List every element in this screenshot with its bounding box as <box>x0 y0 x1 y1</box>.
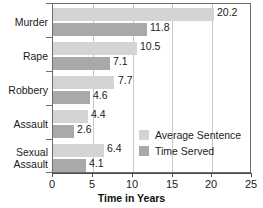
y-tick-assault <box>46 139 52 140</box>
y-category-label-murder: Murder <box>0 17 48 29</box>
y-category-line: Assault <box>0 119 48 131</box>
y-tick-robbery <box>46 105 52 106</box>
legend-label-time-served: Time Served <box>155 145 214 157</box>
x-tick-0 <box>52 173 53 177</box>
bar-label-rape-time-served: 7.1 <box>113 55 128 68</box>
bar-sexual-assault-average-sentence[interactable] <box>53 144 104 157</box>
y-category-label-assault: Assault <box>0 119 48 131</box>
bar-label-murder-average-sentence: 20.2 <box>217 6 237 19</box>
bar-label-rape-average-sentence: 10.5 <box>140 40 160 53</box>
x-tick-15 <box>172 173 173 177</box>
bar-robbery-time-served[interactable] <box>53 91 90 104</box>
bar-murder-average-sentence[interactable] <box>53 8 214 21</box>
bar-label-robbery-average-sentence: 7.7 <box>118 74 133 87</box>
grouped-bar-chart: 20.2 11.8 10.5 7.1 7.7 <box>0 0 263 208</box>
x-axis-title: Time in Years <box>0 192 263 204</box>
y-category-line: Rape <box>0 51 48 63</box>
bar-label-sexual-assault-average-sentence: 6.4 <box>107 142 122 155</box>
legend: Average Sentence Time Served <box>139 128 241 160</box>
bar-rape-average-sentence[interactable] <box>53 42 137 55</box>
x-tick-label-5: 5 <box>89 178 95 190</box>
bar-group-murder: 20.2 11.8 <box>53 8 250 42</box>
legend-item-time-served[interactable]: Time Served <box>139 144 241 158</box>
legend-swatch-time-served <box>139 146 149 156</box>
legend-label-average-sentence: Average Sentence <box>155 129 241 141</box>
y-category-label-sexual-assault: Sexual Assault <box>0 147 48 170</box>
bar-group-robbery: 7.7 4.6 <box>53 76 250 110</box>
y-tick-top <box>46 3 52 4</box>
bar-label-sexual-assault-time-served: 4.1 <box>89 157 104 170</box>
y-category-label-robbery: Robbery <box>0 85 48 97</box>
x-tick-label-25: 25 <box>245 178 257 190</box>
x-tick-label-10: 10 <box>126 178 138 190</box>
bar-label-assault-time-served: 2.6 <box>77 123 92 136</box>
x-tick-10 <box>132 173 133 177</box>
plot-area: 20.2 11.8 10.5 7.1 7.7 <box>52 3 251 173</box>
y-category-line: Sexual <box>0 147 48 159</box>
bar-assault-time-served[interactable] <box>53 125 74 138</box>
y-tick-murder <box>46 37 52 38</box>
y-category-label-rape: Rape <box>0 51 48 63</box>
legend-item-average-sentence[interactable]: Average Sentence <box>139 128 241 142</box>
bar-assault-average-sentence[interactable] <box>53 110 88 123</box>
x-tick-label-0: 0 <box>49 178 55 190</box>
bar-robbery-average-sentence[interactable] <box>53 76 114 89</box>
y-category-line: Murder <box>0 17 48 29</box>
bar-group-rape: 10.5 7.1 <box>53 42 250 76</box>
bar-sexual-assault-time-served[interactable] <box>53 159 86 172</box>
y-tick-rape <box>46 71 52 72</box>
bar-label-robbery-time-served: 4.6 <box>93 89 108 102</box>
x-axis-line <box>52 173 251 174</box>
y-category-line: Assault <box>0 159 48 171</box>
legend-swatch-average-sentence <box>139 130 149 140</box>
bar-label-murder-time-served: 11.8 <box>150 21 170 34</box>
bar-murder-time-served[interactable] <box>53 23 147 36</box>
x-tick-25 <box>251 173 252 177</box>
bar-rape-time-served[interactable] <box>53 57 110 70</box>
x-tick-5 <box>92 173 93 177</box>
x-tick-20 <box>211 173 212 177</box>
x-tick-label-15: 15 <box>166 178 178 190</box>
x-tick-label-20: 20 <box>205 178 217 190</box>
bar-label-assault-average-sentence: 4.4 <box>91 108 106 121</box>
y-category-line: Robbery <box>0 85 48 97</box>
